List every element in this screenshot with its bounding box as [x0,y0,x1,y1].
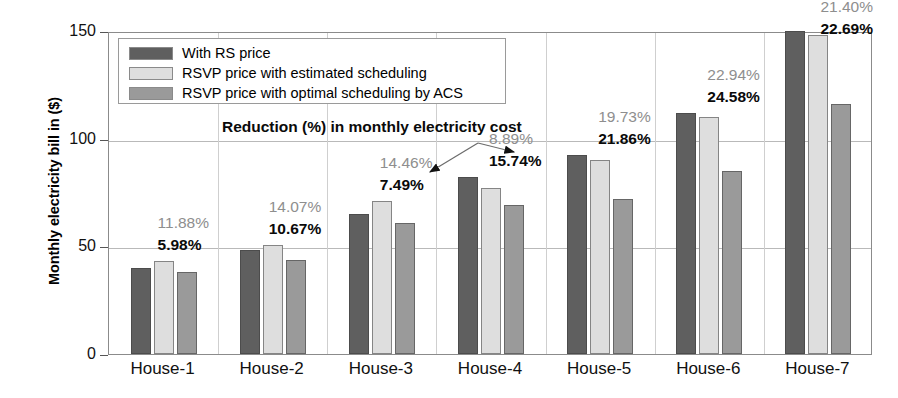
bar [567,155,587,354]
bar [263,245,283,354]
y-tick-mark [100,355,108,356]
vertical-gridline [655,33,656,354]
reduction-optimal-label: 7.49% [380,176,424,194]
y-tick-mark [100,140,108,141]
y-tick-label: 50 [44,237,96,255]
bar [785,31,805,354]
reduction-estimated-label: 14.07% [269,198,322,216]
bar [349,214,369,354]
legend-swatch-rsvp-optimal-acs [129,87,173,100]
bar [395,223,415,354]
x-tick-label: House-6 [653,359,763,379]
bar [154,261,174,354]
legend-swatch-rsvp-estimated [129,67,173,80]
legend-item: With RS price [129,44,505,63]
annotation-title: Reduction (%) in monthly electricity cos… [222,118,522,136]
y-tick-label: 150 [44,22,96,40]
bar [808,35,828,354]
legend-item: RSVP price with optimal scheduling by AC… [129,84,505,103]
bar [590,160,610,354]
reduction-estimated-label: 14.46% [380,154,433,172]
bar [831,104,851,354]
bar-chart-figure: Monthly electricity bill in ($) 05010015… [0,0,898,398]
bar [458,177,478,354]
x-tick-label: House-7 [762,359,872,379]
legend-label: RSVP price with estimated scheduling [182,66,427,81]
reduction-optimal-label: 21.86% [598,130,651,148]
reduction-optimal-label: 5.98% [158,236,202,254]
legend-swatch-with-rs-price [129,47,173,60]
bar [372,201,392,354]
y-axis-title: Monthly electricity bill in ($) [46,41,62,341]
bar [699,117,719,354]
bar [504,205,524,354]
y-tick-mark [100,247,108,248]
reduction-optimal-label: 10.67% [269,220,322,238]
vertical-gridline [546,33,547,354]
bar [676,113,696,354]
x-tick-label: House-4 [435,359,545,379]
x-tick-label: House-1 [108,359,218,379]
x-tick-label: House-3 [326,359,436,379]
y-tick-label: 100 [44,130,96,148]
reduction-estimated-label: 8.89% [489,130,533,148]
reduction-estimated-label: 19.73% [598,108,651,126]
reduction-estimated-label: 11.88% [158,214,209,232]
y-tick-label: 0 [44,345,96,363]
reduction-optimal-label: 22.69% [820,20,873,38]
reduction-optimal-label: 24.58% [707,88,760,106]
reduction-optimal-label: 15.74% [489,152,542,170]
legend-label: RSVP price with optimal scheduling by AC… [182,86,463,101]
bar [131,268,151,354]
bar [613,199,633,354]
reduction-estimated-label: 22.94% [707,66,760,84]
bar [177,272,197,354]
reduction-estimated-label: 21.40% [820,0,873,16]
bar [286,260,306,354]
bar [722,171,742,354]
x-tick-label: House-2 [217,359,327,379]
bar [240,250,260,354]
legend: With RS price RSVP price with estimated … [118,38,506,104]
bar [481,188,501,354]
legend-label: With RS price [182,46,271,61]
y-tick-mark [100,32,108,33]
vertical-gridline [764,33,765,354]
x-tick-label: House-5 [544,359,654,379]
legend-item: RSVP price with estimated scheduling [129,64,505,83]
